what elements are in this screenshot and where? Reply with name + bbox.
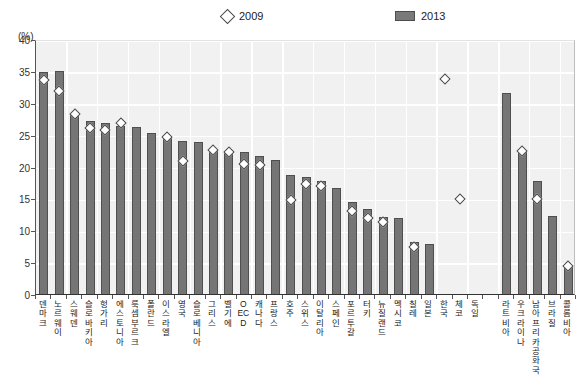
x-axis-category-label: 벨기에 <box>222 300 234 328</box>
bar <box>86 121 95 294</box>
x-axis-category-label: 폴란드 <box>145 300 157 328</box>
x-axis-category-label: 노르웨이 <box>52 300 64 338</box>
gridline-vertical <box>220 41 222 294</box>
x-axis-tick <box>174 295 175 299</box>
x-axis-tick <box>328 295 329 299</box>
x-axis-category-label: 룩셈부르크 <box>129 300 141 347</box>
x-axis-tick <box>513 295 514 299</box>
bar <box>70 114 79 294</box>
x-axis-category-label: 독일 <box>469 300 481 319</box>
y-axis-tick <box>31 136 35 137</box>
x-axis-category-label: 체코 <box>453 300 465 319</box>
x-axis-category-label: 그리스 <box>206 300 218 328</box>
x-axis-tick <box>529 295 530 299</box>
x-axis-category-label: 스페인 <box>330 300 342 328</box>
bar <box>394 218 403 294</box>
x-axis-tick <box>189 295 190 299</box>
x-axis-tick <box>421 295 422 299</box>
x-axis-tick <box>405 295 406 299</box>
x-axis-tick <box>282 295 283 299</box>
x-axis-tick <box>297 295 298 299</box>
y-axis-tick-label: 5 <box>8 258 30 269</box>
gridline-vertical <box>190 41 192 294</box>
x-axis-tick <box>266 295 267 299</box>
x-axis-tick <box>158 295 159 299</box>
bar <box>518 152 527 294</box>
bar <box>147 133 156 294</box>
x-axis-category-label: 남아프리카공화국 <box>530 300 542 375</box>
x-axis-tick <box>112 295 113 299</box>
y-axis-tick <box>31 72 35 73</box>
x-axis-category-label: 일본 <box>422 300 434 319</box>
x-axis-tick <box>544 295 545 299</box>
y-axis-tick <box>31 263 35 264</box>
gridline-vertical <box>375 41 377 294</box>
x-axis-category-label: 칠레 <box>407 300 419 319</box>
diamond-marker <box>455 193 466 204</box>
x-axis-category-label: 슬로베니아 <box>191 300 203 347</box>
bar <box>194 142 203 294</box>
bar <box>224 151 233 294</box>
gridline-horizontal <box>36 40 574 42</box>
x-axis-category-label: 한국 <box>438 300 450 319</box>
diamond-marker-icon <box>220 8 236 24</box>
gridline-horizontal <box>36 72 574 74</box>
x-axis-tick <box>236 295 237 299</box>
x-axis-category-labels: 덴마크노르웨이스웨덴슬로바키아헝가리에스토니아룩셈부르크폴란드이스라엘영국슬로베… <box>0 300 584 370</box>
x-axis-category-label: 캐나다 <box>253 300 265 328</box>
legend-item-2013: 2013 <box>395 10 445 22</box>
gridline-horizontal <box>36 104 574 106</box>
y-axis-tick <box>31 40 35 41</box>
x-axis-tick <box>344 295 345 299</box>
legend-label-2009: 2009 <box>239 10 263 22</box>
x-axis-tick <box>313 295 314 299</box>
gridline-vertical <box>406 41 408 294</box>
x-axis-tick <box>359 295 360 299</box>
bar <box>379 217 388 294</box>
y-axis-tick-label: 40 <box>8 35 30 46</box>
x-axis-tick <box>467 295 468 299</box>
gridline-vertical <box>313 41 315 294</box>
chart-legend: 2009 2013 <box>0 10 584 30</box>
bar <box>425 244 434 294</box>
x-axis-category-label: 우크라이나 <box>515 300 527 347</box>
gridline-vertical <box>436 41 438 294</box>
gridline-vertical <box>159 41 161 294</box>
x-axis-tick <box>128 295 129 299</box>
bar-swatch-icon <box>395 11 415 21</box>
x-axis-category-label: 헝가리 <box>98 300 110 328</box>
bar <box>255 156 264 294</box>
x-axis-tick <box>498 295 499 299</box>
x-axis-tick <box>97 295 98 299</box>
legend-item-2009: 2009 <box>222 10 263 22</box>
bar <box>101 123 110 294</box>
bar <box>55 71 64 294</box>
gridline-vertical <box>498 41 500 294</box>
x-axis-category-label: 호주 <box>284 300 296 319</box>
bar <box>132 127 141 294</box>
gridline-vertical <box>560 41 562 294</box>
x-axis-tick <box>143 295 144 299</box>
gridline-vertical <box>251 41 253 294</box>
bar <box>209 150 218 294</box>
y-axis-tick-label: 35 <box>8 66 30 77</box>
gridline-vertical <box>66 41 68 294</box>
y-axis-tick-label: 30 <box>8 98 30 109</box>
bar <box>548 216 557 294</box>
y-axis-tick-label: 0 <box>8 290 30 301</box>
x-axis-tick <box>35 295 36 299</box>
bar <box>39 72 48 294</box>
gridline-vertical <box>282 41 284 294</box>
bar <box>332 188 341 294</box>
diamond-marker <box>439 74 450 85</box>
bar <box>286 175 295 294</box>
gridline-vertical <box>97 41 99 294</box>
x-axis-tick <box>436 295 437 299</box>
bar <box>240 152 249 294</box>
y-axis-tick <box>31 199 35 200</box>
y-axis-tick <box>31 231 35 232</box>
chart-root: 2009 2013 (%) 0510152025303540 덴마크노르웨이스웨… <box>0 0 584 386</box>
y-axis-tick-label: 15 <box>8 194 30 205</box>
x-axis-tick <box>81 295 82 299</box>
x-axis-category-label: 이탈리아 <box>314 300 326 338</box>
